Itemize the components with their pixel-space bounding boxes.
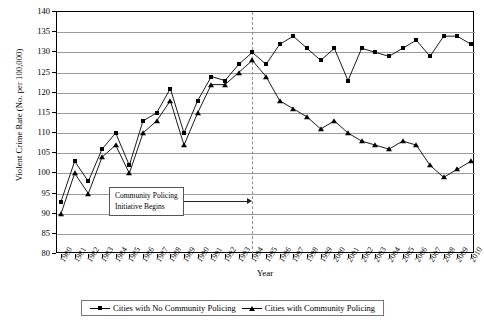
data-point (332, 46, 336, 50)
data-point (114, 131, 118, 135)
y-tick-label: 85 (24, 228, 50, 238)
y-tick-label: 80 (24, 248, 50, 258)
data-point (99, 154, 105, 159)
data-point (263, 74, 269, 79)
y-tick-label: 115 (24, 107, 50, 117)
y-tick-label: 120 (24, 87, 50, 97)
data-point (360, 46, 364, 50)
y-tick-label: 110 (24, 127, 50, 137)
data-point (195, 110, 201, 115)
data-point (86, 179, 90, 183)
y-tick-mark (52, 51, 56, 52)
legend-label-no-community-policing: Cities with No Community Policing (113, 303, 236, 313)
data-point (400, 138, 406, 143)
data-point (278, 42, 282, 46)
data-point (305, 46, 309, 50)
y-tick-mark (52, 172, 56, 173)
data-point (167, 98, 173, 103)
data-point (331, 118, 337, 123)
y-tick-mark (52, 31, 56, 32)
y-tick-mark (52, 193, 56, 194)
y-tick-mark (52, 11, 56, 12)
data-point (222, 82, 228, 87)
data-point (181, 142, 187, 147)
data-point (126, 171, 132, 176)
data-point (386, 146, 392, 151)
data-point (140, 130, 146, 135)
legend-item-community-policing: Cities with Community Policing (242, 303, 375, 313)
y-tick-label: 135 (24, 26, 50, 36)
data-point (72, 171, 78, 176)
y-tick-mark (52, 112, 56, 113)
data-point (59, 200, 63, 204)
data-point (127, 163, 131, 167)
data-point (454, 167, 460, 172)
x-axis-title: Year (56, 268, 474, 278)
data-point (141, 119, 145, 123)
annotation-arrow-head (247, 198, 252, 204)
data-point (250, 50, 254, 54)
data-point (58, 211, 64, 216)
data-point (209, 75, 213, 79)
gridline (57, 153, 475, 154)
annotation-line-2: Initiative Begins (115, 202, 178, 212)
data-point (414, 38, 418, 42)
gridline (57, 133, 475, 134)
data-point (469, 42, 473, 46)
data-point (346, 79, 350, 83)
y-tick-mark (52, 213, 56, 214)
y-tick-mark (52, 132, 56, 133)
y-tick-mark (52, 72, 56, 73)
y-tick-mark (52, 92, 56, 93)
data-point (401, 46, 405, 50)
data-point (264, 62, 268, 66)
y-tick-label: 105 (24, 147, 50, 157)
data-point (441, 175, 447, 180)
y-tick-label: 100 (24, 167, 50, 177)
data-point (442, 34, 446, 38)
data-point (290, 106, 296, 111)
annotation-arrow-line (184, 201, 248, 202)
data-point (387, 54, 391, 58)
legend-item-no-community-policing: Cities with No Community Policing (90, 303, 236, 313)
data-point (73, 159, 77, 163)
data-point (345, 130, 351, 135)
data-point (372, 142, 378, 147)
triangle-marker-icon (242, 304, 262, 312)
plot-area: Community Policing Initiative Begins (56, 11, 474, 253)
annotation-box: Community Policing Initiative Begins (109, 187, 184, 215)
data-point (304, 114, 310, 119)
gridline (57, 234, 475, 235)
data-point (277, 98, 283, 103)
data-point (208, 82, 214, 87)
data-point (359, 138, 365, 143)
y-tick-label: 95 (24, 188, 50, 198)
data-point (249, 58, 255, 63)
data-point (85, 191, 91, 196)
data-point (182, 131, 186, 135)
community-policing-event-line (252, 12, 253, 254)
gridline (57, 113, 475, 114)
y-tick-mark (52, 233, 56, 234)
annotation-line-1: Community Policing (115, 191, 178, 201)
series-path-1 (61, 36, 471, 201)
data-point (373, 50, 377, 54)
data-point (236, 70, 242, 75)
data-point (155, 111, 159, 115)
square-marker-icon (90, 304, 110, 312)
legend-label-community-policing: Cities with Community Policing (265, 303, 375, 313)
chart-legend: Cities with No Community Policing Cities… (81, 300, 384, 316)
y-tick-label: 125 (24, 67, 50, 77)
data-point (237, 62, 241, 66)
data-point (428, 54, 432, 58)
y-tick-label: 90 (24, 208, 50, 218)
y-tick-mark (52, 152, 56, 153)
gridline (57, 52, 475, 53)
data-point (168, 87, 172, 91)
gridline (57, 173, 475, 174)
y-tick-label: 130 (24, 46, 50, 56)
data-point (291, 34, 295, 38)
data-point (196, 99, 200, 103)
gridline (57, 32, 475, 33)
